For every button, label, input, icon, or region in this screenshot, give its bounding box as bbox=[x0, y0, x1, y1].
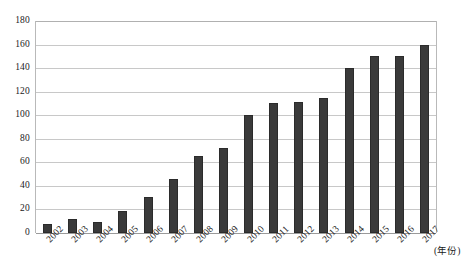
x-tick-label: 2005 bbox=[120, 224, 140, 244]
x-tick-label: 2010 bbox=[246, 224, 266, 244]
x-tick-label: 2008 bbox=[195, 224, 215, 244]
x-tick-label: 2004 bbox=[95, 224, 115, 244]
x-tick-label: 2006 bbox=[145, 224, 165, 244]
x-axis-title: (年份) bbox=[434, 247, 460, 257]
bar-chart: 020406080100120140160180 (年份) 2002200320… bbox=[0, 0, 471, 276]
x-tick-label: 2012 bbox=[296, 224, 316, 244]
x-tick-label: 2002 bbox=[45, 224, 65, 244]
x-tick-label: 2014 bbox=[346, 224, 366, 244]
x-axis: (年份) 20022003200420052006200720082009201… bbox=[0, 0, 471, 276]
x-tick-label: 2009 bbox=[220, 224, 240, 244]
x-tick-label: 2016 bbox=[396, 224, 416, 244]
x-tick-label: 2011 bbox=[271, 225, 291, 245]
x-tick-label: 2013 bbox=[321, 224, 341, 244]
x-tick-label: 2017 bbox=[421, 224, 441, 244]
x-tick-label: 2003 bbox=[70, 224, 90, 244]
x-tick-label: 2007 bbox=[170, 224, 190, 244]
x-tick-label: 2015 bbox=[371, 224, 391, 244]
